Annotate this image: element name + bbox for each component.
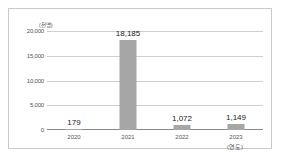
- bar-value-label: 179: [67, 118, 80, 127]
- x-axis-category-label: 2020: [67, 134, 80, 140]
- y-axis-tick-label: 20,000: [27, 28, 44, 34]
- x-axis-note: (연도): [227, 142, 243, 151]
- bar-value-label: 1,149: [226, 113, 246, 122]
- bar-value-label: 18,185: [116, 29, 140, 38]
- bar[interactable]: [66, 129, 83, 131]
- y-axis-tick-label: 15,000: [27, 53, 44, 59]
- bar[interactable]: [174, 125, 191, 130]
- y-axis-tick-label: 0: [41, 127, 44, 133]
- y-axis-tick-label: 5,000: [30, 102, 44, 108]
- bar-value-label: 1,072: [172, 114, 192, 123]
- bar-group: 1,1492023: [209, 31, 263, 130]
- chart-frame: (천명) 05,00010,00015,00020,000179202018,1…: [8, 8, 272, 149]
- x-axis-category-label: 2023: [229, 134, 242, 140]
- x-axis-category-label: 2022: [175, 134, 188, 140]
- bar[interactable]: [228, 124, 245, 130]
- x-axis-category-label: 2021: [121, 134, 134, 140]
- bar-group: 1,0722022: [155, 31, 209, 130]
- bar-group: 18,1852021: [101, 31, 155, 130]
- bar[interactable]: [120, 40, 137, 130]
- bar-group: 1792020: [47, 31, 101, 130]
- y-axis-tick-label: 10,000: [27, 78, 44, 84]
- plot-area: 05,00010,00015,00020,000179202018,185202…: [47, 31, 263, 130]
